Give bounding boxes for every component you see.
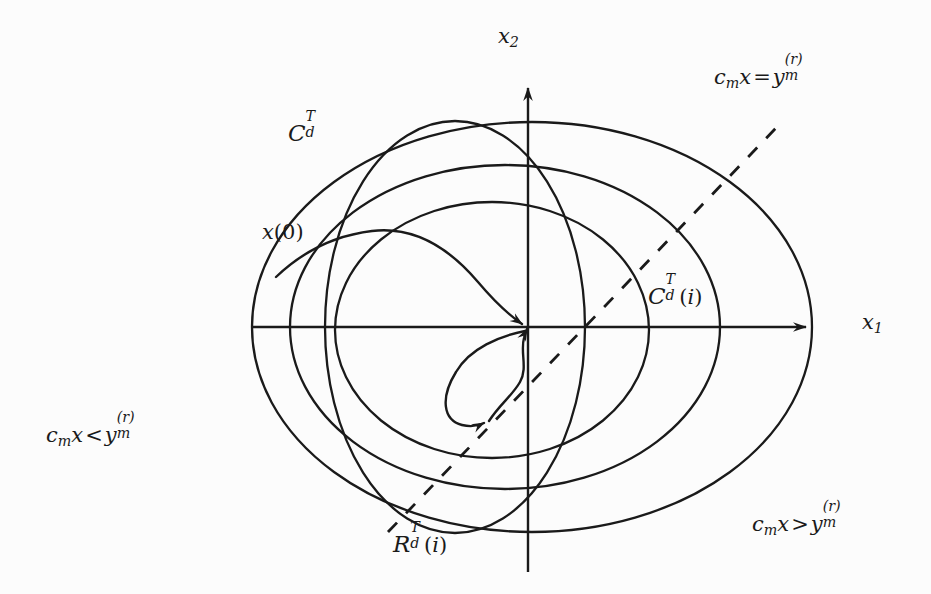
outer-set-label: CTd: [288, 115, 315, 145]
trajectory-upper-branch: [276, 230, 522, 324]
figure-canvas: x2 x1 CTd x(0) CTd (i) RTd (i) cmx=y(r)m…: [0, 0, 931, 594]
hyperplane-equation-label: cmx=y(r)m: [714, 58, 803, 90]
reachable-set-label: RTd (i): [393, 526, 447, 556]
halfplane-greater-label: cmx>y(r)m: [752, 505, 841, 537]
constraint-hyperplane: [388, 128, 776, 532]
inner-ellipse: [335, 202, 649, 458]
trajectory-inner-s: [489, 329, 527, 421]
initial-state-label: x(0): [262, 222, 304, 243]
halfplane-less-label: cmx<y(r)m: [46, 416, 135, 448]
x-axis-label: x1: [862, 312, 883, 335]
y-axis-label: x2: [498, 26, 519, 49]
controllable-set-label: CTd (i): [648, 278, 702, 308]
trajectory-loop-left: [446, 331, 525, 426]
